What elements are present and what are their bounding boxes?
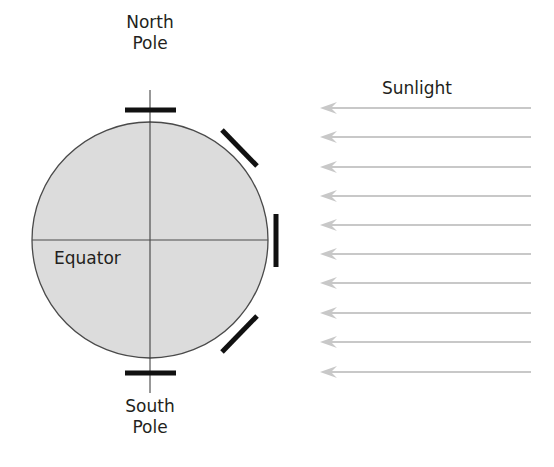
south-pole-label: South Pole xyxy=(110,396,190,438)
south-pole-label-line2: Pole xyxy=(110,417,190,438)
sun-ray-arrow-1 xyxy=(320,102,531,114)
north-pole-label-line1: North xyxy=(110,12,190,33)
sunlight-rays-group xyxy=(320,102,531,378)
sun-ray-arrow-10 xyxy=(320,366,531,378)
sun-ray-arrow-6 xyxy=(320,248,531,260)
sun-ray-arrow-5 xyxy=(320,219,531,231)
south-pole-label-line1: South xyxy=(110,396,190,417)
sun-ray-arrow-8 xyxy=(320,307,531,319)
sunlight-label: Sunlight xyxy=(382,78,452,99)
sun-ray-arrow-2 xyxy=(320,131,531,143)
sun-ray-arrow-7 xyxy=(320,277,531,289)
equator-label: Equator xyxy=(54,248,121,269)
north-pole-label-line2: Pole xyxy=(110,33,190,54)
north-pole-label: North Pole xyxy=(110,12,190,54)
sun-ray-arrow-3 xyxy=(320,161,531,173)
sun-ray-arrow-4 xyxy=(320,190,531,202)
earth-sunlight-diagram xyxy=(0,0,554,467)
sun-ray-arrow-9 xyxy=(320,336,531,348)
